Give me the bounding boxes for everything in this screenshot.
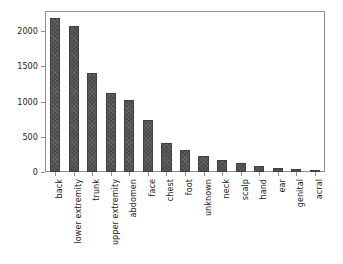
x-axis-tick-label: upper extremity bbox=[111, 179, 120, 245]
x-axis: backlower extremitytrunkupper extremitya… bbox=[46, 172, 324, 264]
y-axis-tick-label: 2000 bbox=[17, 27, 38, 37]
bar-slot bbox=[217, 12, 227, 172]
x-axis-tick-mark bbox=[111, 172, 112, 176]
bar-chart-figure: 0500100015002000 backlower extremitytrun… bbox=[0, 0, 343, 264]
bar-slot bbox=[50, 12, 60, 172]
bar-slot bbox=[124, 12, 134, 172]
x-axis-tick-label: ear bbox=[278, 179, 287, 192]
bar[interactable] bbox=[236, 163, 246, 172]
x-axis-tick-mark bbox=[185, 172, 186, 176]
y-axis-tick-label: 1500 bbox=[17, 62, 38, 72]
bar-slot bbox=[161, 12, 171, 172]
bars-layer bbox=[46, 12, 324, 172]
x-axis-tick-label: lower extremity bbox=[74, 179, 83, 244]
bar-slot bbox=[310, 12, 320, 172]
bar[interactable] bbox=[69, 26, 79, 172]
x-axis-tick-label: trunk bbox=[92, 179, 101, 201]
x-axis-tick-label: foot bbox=[185, 179, 194, 195]
bar[interactable] bbox=[124, 100, 134, 172]
bar-slot bbox=[143, 12, 153, 172]
bar-slot bbox=[106, 12, 116, 172]
x-axis-tick-mark bbox=[222, 172, 223, 176]
y-axis-tick-mark bbox=[41, 102, 45, 103]
x-axis-tick-mark bbox=[92, 172, 93, 176]
bar-slot bbox=[198, 12, 208, 172]
bar-slot bbox=[291, 12, 301, 172]
bar-slot bbox=[69, 12, 79, 172]
x-axis-tick-label: hand bbox=[259, 179, 268, 200]
y-axis-tick-mark bbox=[41, 137, 45, 138]
x-axis-tick-mark bbox=[55, 172, 56, 176]
bar[interactable] bbox=[180, 150, 190, 172]
bar-slot bbox=[236, 12, 246, 172]
x-axis-tick-label: scalp bbox=[241, 179, 250, 200]
y-axis-tick-label: 500 bbox=[22, 133, 38, 143]
y-axis-tick-mark bbox=[41, 172, 45, 173]
bar-slot bbox=[273, 12, 283, 172]
y-axis-tick-mark bbox=[41, 66, 45, 67]
x-axis-tick-mark bbox=[259, 172, 260, 176]
x-axis-tick-label: face bbox=[148, 179, 157, 196]
y-axis-tick-label: 1000 bbox=[17, 98, 38, 108]
bar[interactable] bbox=[87, 73, 97, 172]
bar[interactable] bbox=[143, 120, 153, 173]
y-axis-tick-label: 0 bbox=[33, 168, 38, 178]
bar[interactable] bbox=[161, 143, 171, 172]
bar[interactable] bbox=[106, 93, 116, 172]
x-axis-tick-label: neck bbox=[222, 179, 231, 198]
x-axis-tick-mark bbox=[315, 172, 316, 176]
x-axis-tick-mark bbox=[148, 172, 149, 176]
x-axis-tick-label: unknown bbox=[204, 179, 213, 216]
x-axis-tick-mark bbox=[204, 172, 205, 176]
bar[interactable] bbox=[198, 156, 208, 172]
x-axis-tick-mark bbox=[296, 172, 297, 176]
bar-slot bbox=[87, 12, 97, 172]
bar[interactable] bbox=[50, 18, 60, 173]
x-axis-tick-mark bbox=[129, 172, 130, 176]
y-axis-tick-mark bbox=[41, 31, 45, 32]
x-axis-tick-label: back bbox=[55, 179, 64, 198]
x-axis-tick-label: abdomen bbox=[129, 179, 138, 217]
bar-slot bbox=[254, 12, 264, 172]
x-axis-tick-mark bbox=[166, 172, 167, 176]
x-axis-tick-label: acral bbox=[315, 179, 324, 199]
bar[interactable] bbox=[217, 160, 227, 172]
x-axis-tick-label: chest bbox=[166, 179, 175, 201]
x-axis-tick-mark bbox=[278, 172, 279, 176]
bar-slot bbox=[180, 12, 190, 172]
y-axis: 0500100015002000 bbox=[0, 0, 45, 264]
x-axis-tick-mark bbox=[241, 172, 242, 176]
x-axis-tick-mark bbox=[74, 172, 75, 176]
x-axis-tick-label: genital bbox=[296, 179, 305, 207]
